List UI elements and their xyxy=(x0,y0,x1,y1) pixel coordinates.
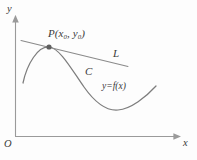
point-p-label-prefix: P(x xyxy=(48,27,64,39)
point-p-label-sub-x: 0 xyxy=(64,33,68,40)
point-p-label-suffix: ) xyxy=(81,27,85,39)
point-p-label-mid: , y xyxy=(67,27,78,39)
x-axis-label: x xyxy=(183,138,188,149)
point-p-label-sub-y: 0 xyxy=(78,33,82,40)
curve-c xyxy=(23,47,156,110)
function-equation-label: y=f(x) xyxy=(102,82,126,92)
diagram-canvas xyxy=(0,0,197,160)
origin-label: O xyxy=(4,139,12,150)
tangent-line-diagram: P(x0, y0) L C y=f(x) y x O xyxy=(0,0,197,160)
point-p-label: P(x0, y0) xyxy=(48,28,85,39)
y-axis-label: y xyxy=(7,4,12,15)
point-p-marker xyxy=(46,44,51,49)
tangent-line-label: L xyxy=(113,48,119,59)
curve-label: C xyxy=(85,66,92,77)
